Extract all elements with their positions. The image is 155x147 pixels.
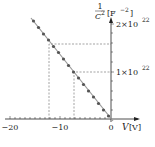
y-ticks bbox=[111, 24, 114, 110]
x-tick-m10: −10 bbox=[52, 123, 69, 132]
x-tick-m20: −20 bbox=[2, 123, 19, 132]
x-tick-0: 0 bbox=[108, 123, 113, 132]
x-axis-unit: [V] bbox=[129, 123, 141, 132]
y-label-denominator-exp: 2 bbox=[101, 9, 105, 16]
x-ticks bbox=[10, 116, 105, 119]
y-label-unit: [F bbox=[107, 9, 116, 18]
y-tick-2-exp: 22 bbox=[142, 16, 150, 23]
y-label-unit-exp: −2 bbox=[120, 6, 129, 13]
y-label-unit-close: ] bbox=[130, 9, 133, 18]
y-tick-1: 1×10 bbox=[116, 68, 138, 77]
y-tick-2: 2×10 bbox=[116, 20, 138, 29]
chart: 1 C 2 [F −2 ] 2×10 22 1×10 22 −20 −10 0 … bbox=[0, 0, 155, 147]
y-tick-1-exp: 22 bbox=[142, 64, 150, 71]
x-axis-arrow-icon bbox=[134, 117, 140, 121]
